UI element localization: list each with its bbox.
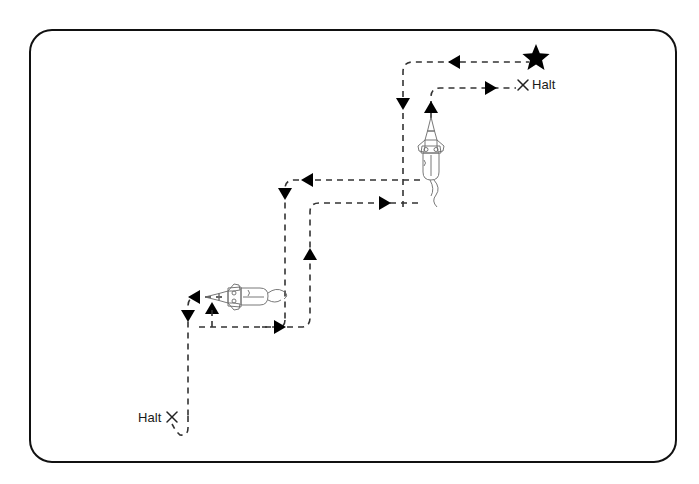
rounded-frame [30, 30, 676, 462]
halt-label-bottom: Halt [138, 410, 162, 425]
figure-canvas: Halt Halt [0, 0, 699, 484]
halt-label-top: Halt [532, 77, 556, 92]
diagram-svg [0, 0, 699, 484]
